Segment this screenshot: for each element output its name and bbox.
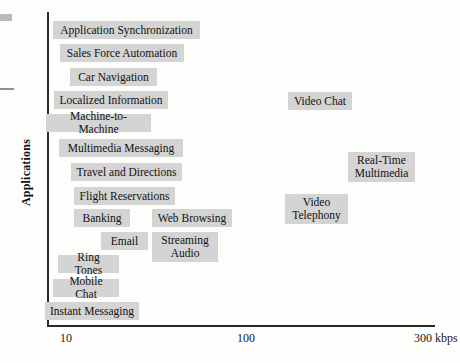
application-box: Ring Tones	[58, 255, 119, 273]
y-axis-line	[47, 12, 49, 326]
application-box: Sales Force Automation	[60, 44, 184, 62]
y-axis-label: Applications	[19, 123, 34, 223]
application-box: Video Telephony	[285, 194, 348, 224]
application-box: Localized Information	[54, 91, 168, 109]
application-box: Travel and Directions	[71, 163, 182, 181]
applications-vs-bitrate-chart: Applications Application Synchronization…	[0, 0, 460, 363]
application-box: Machine-to-Machine	[46, 114, 151, 132]
application-box: Car Navigation	[70, 68, 157, 86]
x-tick-label: 300 kbps	[414, 331, 458, 346]
x-tick-label: 100	[237, 331, 255, 346]
application-box: Email	[101, 232, 148, 250]
application-box: Application Synchronization	[53, 21, 200, 39]
application-box: Streaming Audio	[152, 232, 218, 262]
application-box: Web Browsing	[152, 209, 232, 227]
x-tick-label: 10	[60, 331, 72, 346]
application-box: Video Chat	[288, 92, 352, 110]
application-box: Real-Time Multimedia	[348, 152, 415, 182]
application-box: Multimedia Messaging	[59, 139, 183, 157]
application-box: Instant Messaging	[45, 302, 139, 320]
application-box: Banking	[74, 209, 130, 227]
scan-artifact-top	[0, 14, 12, 21]
application-box: Mobile Chat	[53, 279, 119, 297]
scan-artifact-rule	[0, 88, 14, 90]
application-box: Flight Reservations	[74, 187, 175, 205]
x-axis-line	[47, 325, 435, 327]
